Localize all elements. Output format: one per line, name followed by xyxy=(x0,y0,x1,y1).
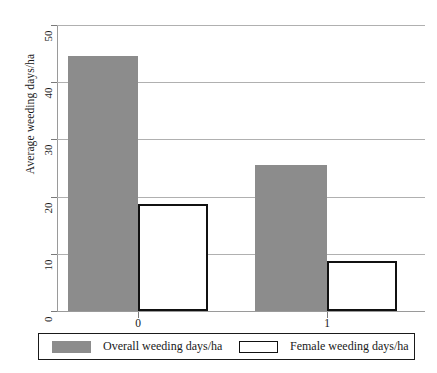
legend-swatch-overall-icon xyxy=(52,341,91,353)
y-tick-label-0: 0 xyxy=(43,317,54,323)
bar-female-group-1 xyxy=(327,261,397,311)
x-tick-label-1: 1 xyxy=(324,317,330,329)
legend-label-female: Female weeding days/ha xyxy=(290,339,409,354)
gridline-0: 0 xyxy=(57,311,425,312)
bar-overall-group-0 xyxy=(68,56,138,311)
y-tick-label-40: 40 xyxy=(43,88,54,99)
y-tick-label-20: 20 xyxy=(43,203,54,214)
legend-entry-overall: Overall weeding days/ha xyxy=(52,334,222,359)
y-axis-title: Average weeding days/ha xyxy=(24,14,36,214)
plot-area: 50 40 30 20 10 0 0 1 xyxy=(57,25,425,311)
y-tick-label-50: 50 xyxy=(43,31,54,42)
gridline-50: 50 xyxy=(57,25,425,26)
legend-label-overall: Overall weeding days/ha xyxy=(103,339,222,354)
legend-entry-female: Female weeding days/ha xyxy=(239,334,409,359)
y-tick-mark-20 xyxy=(51,197,57,198)
x-tick-label-0: 0 xyxy=(135,317,141,329)
y-tick-mark-0 xyxy=(51,311,57,312)
bar-chart: Average weeding days/ha 50 40 30 20 10 0 xyxy=(0,0,437,373)
y-tick-mark-30 xyxy=(51,139,57,140)
y-tick-label-10: 10 xyxy=(43,260,54,271)
y-tick-mark-10 xyxy=(51,254,57,255)
bar-overall-group-1 xyxy=(255,165,327,311)
y-tick-label-30: 30 xyxy=(43,145,54,156)
y-tick-mark-40 xyxy=(51,82,57,83)
y-axis-line xyxy=(57,25,58,312)
y-tick-mark-50 xyxy=(51,25,57,26)
chart-legend: Overall weeding days/ha Female weeding d… xyxy=(38,333,415,360)
legend-swatch-female-icon xyxy=(239,341,278,353)
bar-female-group-0 xyxy=(138,204,208,311)
